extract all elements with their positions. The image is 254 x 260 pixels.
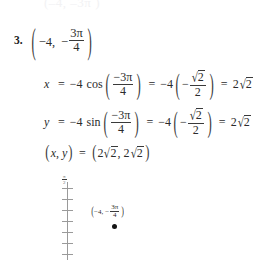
equation-y-arg-open-paren: (: [103, 107, 107, 137]
point-label-close-paren: ): [121, 205, 124, 219]
pair-rhs-close-paren: ): [145, 144, 149, 163]
equation-y-coefficient-2: −4: [158, 116, 171, 128]
close-paren: ): [88, 23, 92, 60]
equation-x-result-sqrt-icon: √2: [239, 77, 253, 92]
equation-x-argument-fraction: −3π 4: [113, 71, 134, 96]
point-label-theta-fraction: 3π 4: [110, 204, 119, 219]
equation-y-argument-fraction: −3π 4: [111, 109, 132, 134]
pair-lhs-open-paren: (: [45, 144, 49, 163]
equation-x-coefficient: −4: [70, 78, 83, 90]
axis-top-label-denominator: 2: [62, 180, 67, 185]
problem-statement: 3. (−4,− 3π 4 ): [14, 27, 95, 54]
equation-x-value-close-paren: ): [209, 69, 213, 99]
axis-tick: [62, 199, 73, 200]
sqrt-icon: √2: [191, 70, 205, 85]
equation-y-arg-numerator: −3π: [111, 109, 132, 122]
theta-fraction: 3π 4: [69, 27, 84, 54]
equation-x-equals-1: =: [53, 78, 70, 90]
equation-x: x = −4 cos ( −3π 4 ) = −4 ( − √2 2 ) = 2…: [44, 70, 253, 98]
pair-rhs-open-paren: (: [92, 144, 96, 163]
pair-rhs-value2-sqrt-icon: √2: [130, 146, 144, 161]
equation-y-lhs: y: [44, 116, 53, 128]
axis-tick: [62, 188, 73, 189]
equation-y-equals-3: =: [214, 116, 231, 128]
equation-x-inner-sign: −: [182, 78, 189, 90]
equation-ordered-pair: ( x , y ) = ( 2 √2 , 2 √2 ): [44, 146, 150, 161]
pair-lhs-y: y: [59, 147, 67, 159]
equation-y: y = −4 sin ( −3π 4 ) = −4 ( − √2 2 ) = 2…: [44, 108, 251, 136]
equation-x-value-numerator: √2: [190, 70, 206, 86]
axis-tick: [62, 221, 73, 222]
equation-y-value-close-paren: ): [207, 107, 211, 137]
problem-number: 3.: [14, 34, 23, 46]
pair-rhs-value2-coefficient: 2: [121, 147, 130, 159]
equation-x-equals-2: =: [143, 78, 160, 90]
equation-x-arg-numerator: −3π: [113, 71, 134, 84]
theta-denominator: 4: [69, 41, 84, 54]
sqrt-icon: √2: [189, 108, 203, 123]
equation-y-arg-close-paren: ): [135, 107, 139, 137]
axis-tick: [62, 232, 73, 233]
radius-value: −4: [39, 35, 52, 49]
axis-top-label-fraction: π 2: [62, 174, 67, 185]
polar-coordinate-pair: (−4,− 3π 4 ): [29, 27, 95, 54]
plotted-point-label: (−4,− 3π 4 ): [90, 204, 124, 219]
axis-tick: [62, 254, 73, 255]
axis-tick: [62, 243, 73, 244]
pair-rhs-value1-sqrt-icon: √2: [103, 146, 117, 161]
equation-x-function: cos: [83, 78, 103, 90]
equation-y-value-denominator: 2: [188, 124, 204, 136]
equation-x-lhs: x: [44, 78, 53, 90]
equation-x-equals-3: =: [216, 78, 233, 90]
point-label-theta-denominator: 4: [110, 212, 119, 219]
equation-x-arg-close-paren: ): [137, 69, 141, 99]
equation-y-equals-1: =: [53, 116, 70, 128]
equation-x-arg-denominator: 4: [113, 85, 134, 97]
pair-equals: =: [74, 147, 91, 159]
equation-y-result-sqrt-icon: √2: [237, 115, 251, 130]
equation-y-inner-sign: −: [180, 116, 187, 128]
open-paren: (: [32, 23, 36, 60]
equation-y-equals-2: =: [141, 116, 158, 128]
axis-tick: [62, 210, 73, 211]
equation-y-value-numerator: √2: [188, 108, 204, 124]
equation-x-value-fraction: √2 2: [190, 70, 206, 98]
equation-x-value-denominator: 2: [190, 86, 206, 98]
theta-sign: −: [61, 35, 68, 49]
equation-y-arg-denominator: 4: [111, 123, 132, 135]
equation-x-coefficient-2: −4: [160, 78, 173, 90]
equation-y-coefficient: −4: [70, 116, 83, 128]
cut-off-previous-line: (–4, –3π ): [44, 0, 100, 9]
theta-numerator: 3π: [69, 27, 84, 41]
plotted-point-marker: [112, 224, 117, 229]
polar-graph: π 2 (−4,− 3π 4 ): [0, 174, 254, 260]
point-label-theta-sign: −: [103, 208, 109, 216]
equation-x-value-open-paren: (: [175, 69, 179, 99]
pair-lhs-close-paren: ): [69, 144, 73, 163]
equation-y-value-open-paren: (: [173, 107, 177, 137]
equation-x-arg-open-paren: (: [105, 69, 109, 99]
point-label-open-paren: (: [91, 205, 94, 219]
equation-y-function: sin: [83, 116, 101, 128]
equation-y-value-fraction: √2 2: [188, 108, 204, 136]
